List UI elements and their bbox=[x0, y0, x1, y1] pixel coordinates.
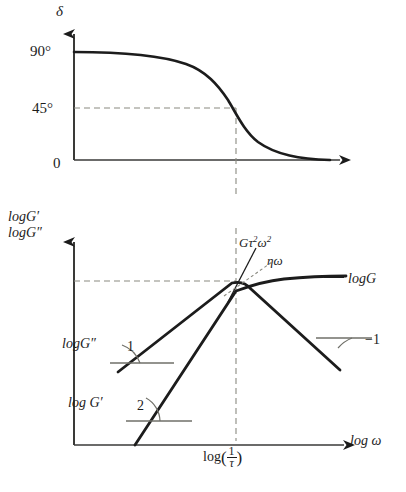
logG-double-prime-label: logG″ bbox=[62, 337, 96, 351]
upper-panel bbox=[74, 34, 340, 196]
fraction-denominator: τ bbox=[227, 458, 237, 469]
slope-negative-1-label: −1 bbox=[365, 333, 380, 347]
eta-omega-annotation: ηω bbox=[267, 254, 283, 267]
upper-ytick-90: 90° bbox=[30, 44, 51, 59]
gtau-omega-squared-annotation: Gτ2ω2 bbox=[239, 235, 271, 249]
lower-y-axis-label-line2: logG″ bbox=[8, 225, 42, 240]
gtau-omega-text: ω bbox=[257, 235, 266, 250]
slope-1-label: 1 bbox=[127, 340, 134, 354]
rheology-figure bbox=[0, 0, 406, 492]
logG-prime-label: log G′ bbox=[68, 396, 103, 410]
paren-close: ) bbox=[237, 448, 243, 467]
slope-2-label: 2 bbox=[137, 399, 144, 413]
lower-x-axis-label: log ω bbox=[350, 434, 381, 448]
logG-double-prime-curve bbox=[118, 282, 340, 372]
upper-ytick-45: 45° bbox=[32, 101, 53, 116]
slope-neg1-arc bbox=[338, 338, 352, 348]
one-over-tau-fraction: 1 τ bbox=[227, 446, 237, 469]
upper-y-axis-label: δ bbox=[56, 4, 63, 19]
gtau-text: Gτ bbox=[239, 235, 253, 250]
log-text: log bbox=[203, 449, 221, 464]
lower-panel bbox=[74, 228, 372, 445]
lower-y-axis-label-line1: logG′ bbox=[8, 209, 39, 224]
logG-prime-curve bbox=[135, 276, 346, 445]
gtau-omega-squared-leader bbox=[228, 248, 256, 302]
x-tick-log-one-over-tau: log( 1 τ ) bbox=[203, 446, 242, 469]
upper-ytick-0: 0 bbox=[53, 156, 61, 171]
omega-exponent: 2 bbox=[267, 234, 271, 244]
eta-omega-leader bbox=[224, 262, 272, 296]
delta-curve bbox=[74, 52, 330, 160]
plateau-label: logG bbox=[348, 272, 376, 286]
lower-y-axis-label: logG′ logG″ bbox=[8, 209, 42, 241]
